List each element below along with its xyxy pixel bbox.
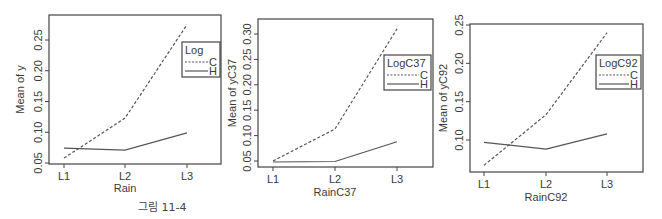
- chart-panel-1: 0.050.100.150.200.25L1L2L3RainMean of yL…: [14, 15, 221, 194]
- y-axis-label: Mean of y: [14, 65, 26, 114]
- figure: 0.050.100.150.200.25L1L2L3RainMean of yL…: [0, 0, 662, 219]
- legend-label-H: H: [630, 78, 638, 90]
- figure-caption: 그림 11-4: [138, 198, 186, 214]
- y-tick-label: 0.05: [32, 152, 44, 173]
- x-tick-label: L1: [58, 170, 70, 182]
- legend-label-H: H: [209, 65, 217, 77]
- y-tick-label: 0.25: [453, 14, 465, 35]
- x-tick-label: L1: [267, 173, 279, 185]
- y-tick-label: 0.20: [32, 60, 44, 81]
- x-axis-label: Rain: [114, 182, 137, 194]
- series-line-C: [484, 33, 607, 166]
- y-tick-label: 0.05: [241, 150, 253, 171]
- legend: LogC37CH: [384, 55, 431, 90]
- y-axis-label: Mean of yC37: [226, 59, 238, 127]
- y-tick-label: 0.20: [241, 74, 253, 95]
- x-axis-label: RainC37: [314, 186, 357, 198]
- y-tick-label: 0.10: [241, 125, 253, 146]
- y-tick-label: 0.10: [453, 129, 465, 150]
- y-axis-label: Mean of yC92: [437, 64, 449, 132]
- legend: LogC92CH: [596, 55, 641, 90]
- y-tick-label: 0.30: [241, 23, 253, 44]
- x-tick-label: L2: [329, 173, 341, 185]
- y-tick-label: 0.20: [453, 53, 465, 74]
- y-tick-label: 0.15: [32, 91, 44, 112]
- legend-title: LogC92: [599, 57, 638, 69]
- x-tick-label: L3: [391, 173, 403, 185]
- y-tick-label: 0.25: [241, 49, 253, 70]
- legend-label-H: H: [420, 78, 428, 90]
- x-tick-label: L2: [119, 170, 131, 182]
- plot-frame: [258, 19, 433, 167]
- series-line-H: [484, 134, 607, 149]
- legend-title: Log: [185, 44, 203, 56]
- chart-panel-3: 0.100.150.200.25L1L2L3RainC92Mean of yC9…: [437, 14, 643, 203]
- y-tick-label: 0.15: [453, 91, 465, 112]
- y-tick-label: 0.15: [241, 99, 253, 120]
- y-tick-label: 0.25: [32, 29, 44, 50]
- series-line-H: [64, 133, 187, 150]
- chart-panel-2: 0.050.100.150.200.250.30L1L2L3RainC37Mea…: [226, 19, 433, 198]
- y-tick-label: 0.10: [32, 122, 44, 143]
- plot-frame: [49, 15, 221, 164]
- x-tick-label: L3: [181, 170, 193, 182]
- legend-title: LogC37: [387, 57, 426, 69]
- x-axis-label: RainC92: [525, 191, 568, 203]
- x-tick-label: L1: [478, 178, 490, 190]
- series-line-C: [273, 29, 397, 161]
- legend: LogCH: [182, 42, 220, 77]
- plot-frame: [470, 24, 643, 172]
- x-tick-label: L2: [540, 178, 552, 190]
- x-tick-label: L3: [601, 178, 613, 190]
